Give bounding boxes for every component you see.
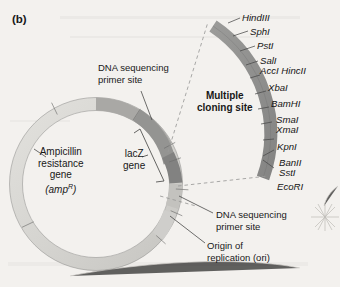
amp-gene-symbol-suffix: ) (73, 184, 76, 195)
lacz-line2: gene (123, 160, 145, 172)
dna-primer-top-line2: primer site (98, 74, 169, 86)
mcs-title-line1: Multiple (197, 90, 253, 102)
dna-primer-bottom-line1: DNA sequencing (216, 209, 287, 221)
enzyme-label-sphi: SphI (250, 26, 270, 37)
mcs-segment (168, 155, 176, 183)
panel-letter: (b) (12, 14, 27, 25)
primer-site-segment (172, 184, 176, 207)
enzyme-label-xmai: XmaI (276, 124, 298, 135)
lacz-gene-label: lacZ gene (123, 148, 145, 171)
amp-line1: Ampicillin (38, 146, 84, 158)
ampicillin-resistance-gene-label: Ampicillin resistance gene (ampR) (38, 146, 84, 196)
lacz-line1: lacZ (123, 148, 145, 160)
amp-line2: resistance (38, 158, 84, 170)
dna-primer-site-bottom-label: DNA sequencing primer site (216, 209, 287, 232)
enzyme-label-ecori: EcoRI (277, 181, 303, 192)
amp-line3: gene (38, 169, 84, 181)
amp-line4: (ampR) (38, 181, 84, 196)
mcs-title-line2: cloning site (197, 102, 253, 114)
plasmid-circle (10, 98, 189, 271)
origin-of-replication-label: Origin of replication (ori) (207, 240, 270, 263)
plasmid-figure: (b) DNA sequencing primer site Multiple … (0, 0, 340, 287)
enzyme-label-kpni: KpnI (277, 141, 297, 152)
enzyme-label-ssti: SstI (279, 167, 296, 178)
dna-primer-site-top-label: DNA sequencing primer site (98, 62, 169, 85)
dna-primer-top-line1: DNA sequencing (98, 62, 169, 74)
enzyme-label-hindiii: HindIII (242, 12, 270, 23)
ori-line2: replication (ori) (207, 252, 270, 264)
scan-artifact-starburst (311, 203, 339, 231)
dna-primer-bottom-line2: primer site (216, 221, 287, 233)
amp-gene-symbol-prefix: (amp (45, 184, 68, 195)
enzyme-label-acci-hincii: AccI HincII (260, 65, 306, 76)
ori-segment (158, 212, 170, 236)
multiple-cloning-site-label: Multiple cloning site (197, 90, 253, 113)
enzyme-label-bamhi: BamHI (271, 98, 300, 109)
enzyme-label-xbai: XbaI (268, 82, 288, 93)
ori-line1: Origin of (207, 240, 270, 252)
enzyme-label-psti: PstI (257, 40, 274, 51)
